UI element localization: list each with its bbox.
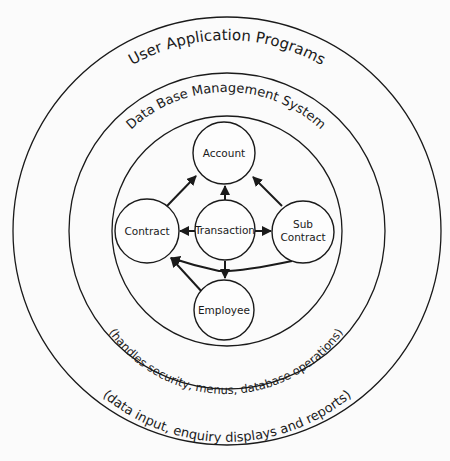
dbms-layer-diagram: User Application Programs (data input, e… bbox=[0, 0, 450, 461]
node-subcontract: Sub Contract bbox=[272, 201, 334, 263]
edge-subcontract-to-account bbox=[253, 177, 282, 206]
node-transaction: Transaction bbox=[194, 200, 255, 260]
node-subcontract-label-line1: Sub bbox=[293, 218, 313, 230]
outer-ring-title: User Application Programs bbox=[125, 26, 329, 69]
edge-contract-to-account bbox=[167, 176, 196, 206]
node-contract: Contract bbox=[115, 199, 179, 263]
node-subcontract-label-line2: Contract bbox=[280, 231, 325, 243]
node-employee-label: Employee bbox=[198, 304, 250, 316]
node-contract-label: Contract bbox=[124, 225, 169, 237]
node-transaction-label: Transaction bbox=[194, 224, 255, 236]
node-account-label: Account bbox=[203, 147, 245, 159]
node-employee: Employee bbox=[194, 280, 254, 340]
node-account: Account bbox=[193, 122, 255, 184]
